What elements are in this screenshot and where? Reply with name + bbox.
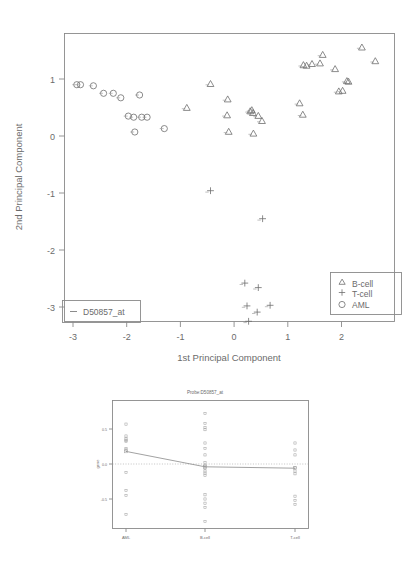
data-point-t-cell [265,302,274,309]
x-axis: -3 -2 -1 0 1 2 [69,322,344,343]
data-point-t-cell [253,284,262,291]
data-point-t-cell [242,303,251,310]
strip-markers [113,413,309,523]
strip-point-aml [125,439,127,441]
data-point-b-cell [370,58,378,64]
y-axis-label: 2nd Principal Component [13,123,24,230]
bottom-y-tick-label: 0.0 [102,463,107,467]
x-tick-label: -1 [176,332,184,342]
data-point-aml [135,92,143,98]
group-mean-line [126,451,295,468]
data-point-aml [76,82,84,88]
strip-point-aml [125,438,127,440]
probe-legend: D50857_at [63,301,141,323]
strip-point-t-cell [294,470,296,472]
strip-point-t-cell [294,504,296,506]
main-plot: 1 0 -1 -2 -3 -3 -2 -1 0 1 2 1st Principa… [13,34,402,364]
bottom-plot-frame [113,401,309,529]
data-point-t-cell [252,309,261,316]
bottom-x-axis: AML B-cell T-cell [122,529,300,541]
cell-type-legend: B-cell T-cell AML [331,273,402,315]
figure-svg: 1 0 -1 -2 -3 -3 -2 -1 0 1 2 1st Principa… [0,0,402,563]
x-axis-label: 1st Principal Component [177,352,281,363]
x-tick-label: 2 [339,332,344,342]
strip-point-b-cell [204,413,206,415]
y-tick-label: -3 [47,303,55,313]
data-point-b-cell [222,112,230,118]
legend-label-b-cell: B-cell [352,279,373,289]
strip-point-t-cell [294,495,296,497]
strip-point-b-cell [204,498,206,500]
scatter-markers [72,44,379,325]
data-point-b-cell [295,100,303,106]
figure-container: 1 0 -1 -2 -3 -3 -2 -1 0 1 2 1st Principa… [0,0,402,563]
bottom-plot-title: Probe:D50857_at [187,390,224,395]
data-point-t-cell [257,215,266,222]
strip-point-b-cell [204,520,206,522]
strip-point-t-cell [294,499,296,501]
data-point-t-cell [205,187,214,194]
data-point-aml [109,90,117,96]
legend-label-aml: AML [352,300,370,310]
bottom-x-tick-label: B-cell [200,535,210,540]
strip-point-aml [125,494,127,496]
data-point-aml [89,83,97,89]
circle-icon [339,301,345,307]
data-point-b-cell [248,130,256,136]
y-tick-label: 0 [50,132,55,142]
data-point-t-cell [240,280,249,287]
strip-point-aml [125,435,127,437]
probe-legend-label: D50857_at [83,307,125,317]
strip-point-aml [125,448,127,450]
data-point-b-cell [206,81,214,87]
bottom-x-tick-label: AML [122,535,131,540]
data-point-aml [124,113,132,119]
bottom-x-tick-label: T-cell [290,535,300,540]
x-tick-label: 0 [232,332,237,342]
main-plot-frame [65,34,395,322]
bottom-y-axis: 0.5 0.0 -0.5 [101,428,113,502]
strip-point-t-cell [294,449,296,451]
y-axis: 1 0 -1 -2 -3 [47,75,65,313]
x-tick-label: 1 [285,332,290,342]
strip-point-b-cell [204,462,206,464]
strip-point-b-cell [204,442,206,444]
strip-point-b-cell [204,448,206,450]
strip-point-t-cell [294,442,296,444]
data-point-b-cell [298,111,306,117]
strip-point-aml [125,423,127,425]
legend-label-t-cell: T-cell [352,289,372,299]
y-tick-label: -1 [47,189,55,199]
bottom-y-axis-label: gene [95,459,100,469]
strip-point-b-cell [204,494,206,496]
data-point-b-cell [318,51,326,57]
bottom-y-tick-label: -0.5 [101,498,107,502]
y-tick-label: -2 [47,246,55,256]
strip-point-b-cell [204,506,206,508]
strip-point-aml [125,513,127,515]
strip-point-t-cell [294,454,296,456]
data-point-aml [160,126,168,132]
triangle-icon [339,279,345,284]
data-point-b-cell [224,128,232,134]
data-point-aml [130,129,138,135]
strip-point-b-cell [204,502,206,504]
strip-point-aml [125,471,127,473]
strip-point-b-cell [204,422,206,424]
data-point-aml [116,95,124,101]
x-tick-label: -3 [69,332,77,342]
data-point-aml [99,90,107,96]
data-point-b-cell [330,66,338,72]
data-point-b-cell [315,60,323,66]
strip-point-t-cell [294,473,296,475]
y-tick-label: 1 [50,75,55,85]
bottom-plot: Probe:D50857_at 0.5 0.0 -0.5 gene AML B-… [95,390,309,540]
strip-point-b-cell [204,454,206,456]
data-point-b-cell [223,96,231,102]
strip-point-aml [125,441,127,443]
data-point-b-cell [357,44,365,50]
plus-icon [339,289,345,295]
strip-point-aml [125,490,127,492]
data-point-b-cell [182,104,190,110]
data-point-aml [129,114,137,120]
